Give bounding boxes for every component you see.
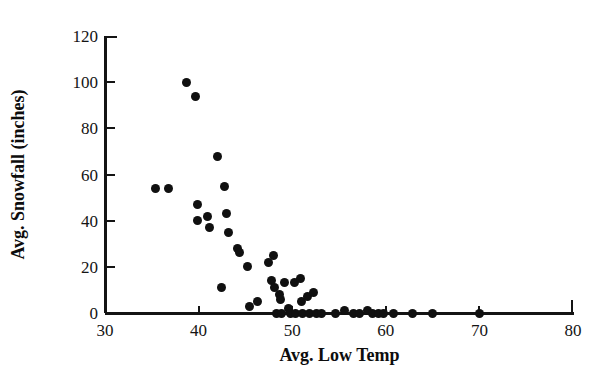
x-tick-label-80: 80 bbox=[565, 322, 582, 339]
y-tick-label-60: 60 bbox=[81, 166, 98, 183]
y-tick-label-40: 40 bbox=[81, 212, 98, 229]
y-tick-60 bbox=[107, 174, 115, 176]
y-axis-top-cap bbox=[104, 36, 117, 38]
data-point bbox=[379, 309, 388, 318]
plot-area bbox=[105, 36, 573, 313]
y-tick-20 bbox=[107, 266, 115, 268]
data-point bbox=[309, 288, 318, 297]
y-tick-80 bbox=[107, 127, 115, 129]
data-point bbox=[408, 309, 417, 318]
x-tick-label-70: 70 bbox=[471, 322, 488, 339]
x-tick-40 bbox=[198, 306, 200, 313]
data-point bbox=[269, 251, 278, 260]
y-tick-100 bbox=[107, 81, 115, 83]
y-tick-label-0: 0 bbox=[90, 305, 99, 322]
scatter-plot-figure: 304050607080 020406080100120 Avg. Low Te… bbox=[0, 0, 604, 389]
x-axis-label: Avg. Low Temp bbox=[105, 345, 574, 366]
x-tick-label-60: 60 bbox=[377, 322, 394, 339]
y-tick-label-120: 120 bbox=[73, 28, 99, 45]
y-axis-label: Avg. Snowfall (inches) bbox=[8, 36, 30, 313]
data-point bbox=[296, 274, 305, 283]
y-tick-label-80: 80 bbox=[81, 120, 98, 137]
data-point bbox=[182, 78, 191, 87]
data-point bbox=[276, 295, 285, 304]
data-point bbox=[151, 184, 160, 193]
data-point bbox=[217, 283, 226, 292]
data-point bbox=[428, 309, 437, 318]
data-point bbox=[475, 309, 484, 318]
data-point bbox=[220, 182, 229, 191]
data-point bbox=[164, 184, 173, 193]
x-axis-end-cap bbox=[571, 300, 573, 313]
data-point bbox=[389, 309, 398, 318]
data-point bbox=[203, 212, 212, 221]
data-point bbox=[191, 92, 200, 101]
y-tick-label-20: 20 bbox=[81, 258, 98, 275]
x-tick-label-50: 50 bbox=[284, 322, 301, 339]
y-tick-40 bbox=[107, 220, 115, 222]
data-point bbox=[317, 309, 326, 318]
x-tick-label-30: 30 bbox=[97, 322, 114, 339]
data-point bbox=[224, 228, 233, 237]
data-point bbox=[331, 309, 340, 318]
data-point bbox=[213, 152, 222, 161]
x-tick-label-40: 40 bbox=[190, 322, 207, 339]
data-point bbox=[253, 297, 262, 306]
y-tick-label-100: 100 bbox=[73, 74, 99, 91]
